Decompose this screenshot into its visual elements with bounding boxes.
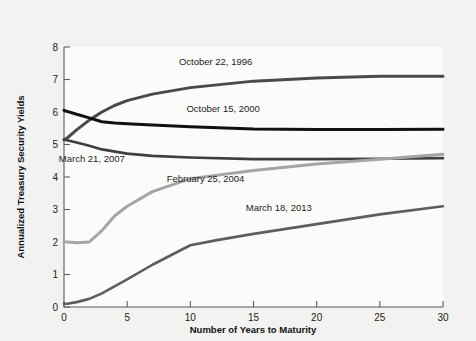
series-label: March 18, 2013 (246, 202, 312, 213)
y-tick-label: 4 (52, 172, 58, 183)
x-tick-label: 5 (124, 312, 130, 323)
y-tick-label: 1 (52, 269, 58, 280)
y-tick-label: 2 (52, 237, 58, 248)
x-tick-label: 30 (437, 312, 449, 323)
y-tick-label: 3 (52, 204, 58, 215)
chart-canvas: 012345678051015202530 October 22, 1996Oc… (0, 0, 476, 341)
x-tick-label: 10 (185, 312, 197, 323)
y-tick-label: 0 (52, 302, 58, 313)
x-tick-label: 25 (374, 312, 386, 323)
x-tick-label: 0 (61, 312, 67, 323)
yield-curve-chart: 012345678051015202530 October 22, 1996Oc… (0, 0, 476, 341)
x-tick-label: 20 (311, 312, 323, 323)
series-label: March 21, 2007 (59, 153, 125, 164)
y-tick-label: 6 (52, 107, 58, 118)
y-axis-title: Annualized Treasury Security Yields (15, 95, 26, 258)
series-label: February 25, 2004 (167, 173, 245, 184)
y-tick-label: 5 (52, 139, 58, 150)
series-label: October 15, 2000 (186, 103, 259, 114)
x-axis-title: Number of Years to Maturity (190, 324, 317, 335)
x-tick-label: 15 (248, 312, 260, 323)
y-tick-label: 8 (52, 42, 58, 53)
series-label: October 22, 1996 (179, 56, 252, 67)
y-tick-label: 7 (52, 74, 58, 85)
plot-area-background (64, 47, 443, 307)
